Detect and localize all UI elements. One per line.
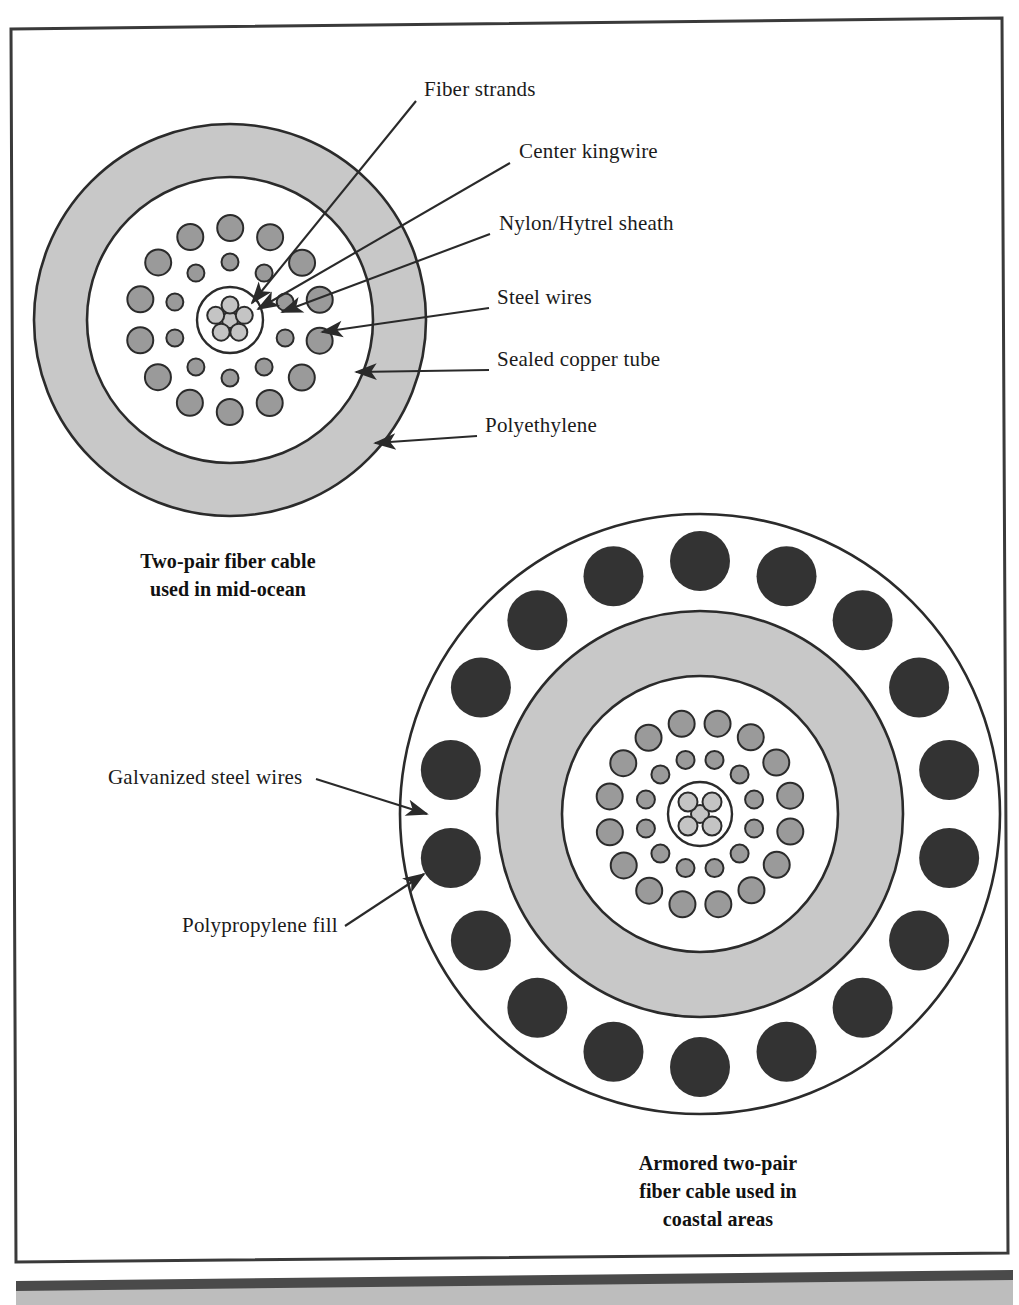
steel-wire-strand [763, 750, 789, 776]
label-sealed-copper-tube: Sealed copper tube [497, 347, 660, 371]
galvanized-steel-wire [421, 828, 481, 888]
galvanized-steel-wire [451, 658, 511, 718]
bottom-caption-line-3: coastal areas [663, 1208, 773, 1230]
steel-wire-strand [127, 327, 153, 353]
galvanized-steel-wire [919, 740, 979, 800]
fiber-strand [236, 307, 253, 324]
steel-wire-strand [257, 224, 283, 250]
galvanized-steel-wire [757, 546, 817, 606]
steel-wire-strand [597, 783, 623, 809]
top-caption-line-2: used in mid-ocean [150, 578, 306, 600]
top-caption-line-1: Two-pair fiber cable [140, 550, 315, 573]
steel-wire-strand [705, 891, 731, 917]
steel-wire-strand [677, 859, 695, 877]
galvanized-steel-wire [833, 590, 893, 650]
steel-wire-strand [777, 819, 803, 845]
steel-wire-strand [705, 751, 723, 769]
steel-wire-strand [166, 329, 183, 346]
steel-wire-strand [177, 390, 203, 416]
galvanized-steel-wire [757, 1022, 817, 1082]
steel-wire-strand [166, 294, 183, 311]
steel-wire-strand [597, 819, 623, 845]
top-cable-diagram [34, 124, 426, 516]
bottom-caption: Armored two-pair fiber cable used in coa… [639, 1152, 797, 1230]
label-center-kingwire: Center kingwire [519, 139, 658, 163]
fiber-strand [678, 792, 697, 811]
galvanized-steel-wire [583, 546, 643, 606]
steel-wire-strand [669, 711, 695, 737]
fiber-strand [703, 792, 722, 811]
fiber-strand [703, 817, 722, 836]
steel-wire-strand [610, 750, 636, 776]
label-nylon-hytrel-sheath: Nylon/Hytrel sheath [499, 211, 674, 235]
steel-wire-strand [636, 878, 662, 904]
steel-wire-strand [187, 265, 204, 282]
steel-wire-strand [217, 399, 243, 425]
steel-wire-strand [745, 819, 763, 837]
steel-wire-strand [222, 254, 239, 271]
galvanized-steel-wire [889, 911, 949, 971]
steel-wire-strand [217, 215, 243, 241]
steel-wire-strand [637, 819, 655, 837]
leader-polyethylene [375, 436, 477, 443]
steel-wire-strand [651, 765, 669, 783]
fiber-strand [230, 324, 247, 341]
galvanized-steel-wire [833, 978, 893, 1038]
galvanized-steel-wire [583, 1022, 643, 1082]
steel-wire-strand [187, 358, 204, 375]
label-galvanized-steel-wires: Galvanized steel wires [108, 765, 303, 789]
steel-wire-strand [277, 329, 294, 346]
steel-wire-strand [177, 224, 203, 250]
steel-wire-strand [127, 286, 153, 312]
label-fiber-strands: Fiber strands [424, 77, 536, 101]
label-polyethylene: Polyethylene [485, 413, 597, 437]
steel-wire-strand [777, 783, 803, 809]
steel-wire-strand [636, 725, 662, 751]
steel-wire-strand [764, 852, 790, 878]
steel-wire-strand [731, 845, 749, 863]
steel-wire-strand [257, 390, 283, 416]
bottom-caption-line-2: fiber cable used in [639, 1180, 797, 1202]
steel-wire-strand [651, 845, 669, 863]
cable-cross-section-figure: Fiber strands Center kingwire Nylon/Hytr… [0, 0, 1019, 1305]
fiber-strand [213, 324, 230, 341]
steel-wire-strand [611, 852, 637, 878]
steel-wire-strand [738, 877, 764, 903]
top-caption: Two-pair fiber cable used in mid-ocean [140, 550, 315, 600]
steel-wire-strand [637, 791, 655, 809]
steel-wire-strand [705, 859, 723, 877]
steel-wire-strand [738, 724, 764, 750]
steel-wire-strand [256, 358, 273, 375]
bottom-labels: Galvanized steel wires Polypropylene fil… [108, 765, 338, 937]
galvanized-steel-wire [451, 911, 511, 971]
steel-wire-strand [731, 765, 749, 783]
page-footer [16, 1270, 1013, 1305]
steel-wire-strand [256, 265, 273, 282]
steel-wire-strand [222, 370, 239, 387]
galvanized-steel-wire [919, 828, 979, 888]
galvanized-steel-wire [889, 658, 949, 718]
label-steel-wires: Steel wires [497, 285, 592, 309]
top-labels: Fiber strands Center kingwire Nylon/Hytr… [424, 77, 674, 437]
figure-page: Fiber strands Center kingwire Nylon/Hytr… [0, 0, 1019, 1305]
label-polypropylene-fill: Polypropylene fill [182, 913, 338, 937]
steel-wire-strand [307, 287, 333, 313]
bottom-caption-line-1: Armored two-pair [639, 1152, 797, 1175]
bottom-cable-diagram [400, 514, 1000, 1114]
galvanized-steel-wire [421, 740, 481, 800]
steel-wire-strand [669, 891, 695, 917]
galvanized-steel-wire [670, 1037, 730, 1097]
galvanized-steel-wire [670, 531, 730, 591]
galvanized-steel-wire [507, 978, 567, 1038]
steel-wire-strand [145, 249, 171, 275]
steel-wire-strand [745, 791, 763, 809]
fiber-strand [678, 817, 697, 836]
steel-wire-strand [145, 364, 171, 390]
steel-wire-strand [677, 751, 695, 769]
galvanized-steel-wire [507, 590, 567, 650]
steel-wire-strand [705, 711, 731, 737]
steel-wire-strand [289, 365, 315, 391]
